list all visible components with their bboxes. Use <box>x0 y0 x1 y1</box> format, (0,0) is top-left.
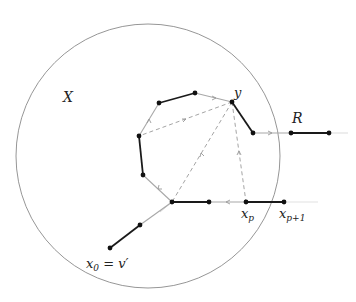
arrow-icon <box>200 153 204 157</box>
thin-edges <box>139 93 291 225</box>
xp-label-sub: p <box>248 213 254 223</box>
node <box>138 223 143 228</box>
node <box>251 131 256 136</box>
region-label-x: X <box>63 90 73 104</box>
dashed-arrow-markers <box>182 119 241 157</box>
node-xp1 <box>282 200 287 205</box>
arrow-markers <box>147 96 272 204</box>
node <box>289 131 294 136</box>
xp-label: xp <box>241 207 254 220</box>
node <box>193 91 198 96</box>
dashed-edges <box>139 102 246 202</box>
target-label-y: y <box>234 86 241 99</box>
xp1-label-sub: p+1 <box>286 213 305 223</box>
node <box>327 131 332 136</box>
node-y <box>230 100 235 105</box>
arrow-icon <box>158 185 162 189</box>
start-label-eq: = v′ <box>99 256 128 271</box>
xp1-label: xp+1 <box>279 207 305 220</box>
node-x0 <box>108 246 113 251</box>
start-label-sub: 0 <box>93 263 99 273</box>
start-label: x0 = v′ <box>86 257 129 270</box>
node-hub <box>170 200 175 205</box>
region-circle <box>16 24 280 288</box>
node <box>157 101 162 106</box>
path-label-r: R <box>292 111 303 125</box>
node <box>141 173 146 178</box>
node-xp <box>244 200 249 205</box>
diagram-canvas <box>0 0 356 302</box>
arrow-icon <box>147 119 151 123</box>
node <box>207 200 212 205</box>
node <box>137 134 142 139</box>
